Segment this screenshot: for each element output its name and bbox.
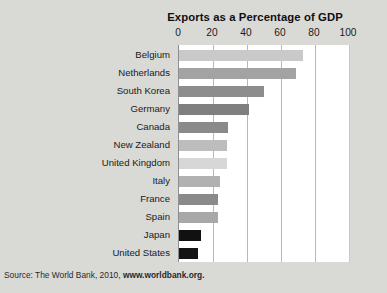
x-tick-label-80: 80 xyxy=(308,27,319,38)
bar-row xyxy=(179,208,349,226)
x-tick-label-0: 0 xyxy=(175,27,181,38)
plot-area xyxy=(178,45,350,262)
x-tick-label-60: 60 xyxy=(274,27,285,38)
bar xyxy=(179,104,249,115)
bar xyxy=(179,50,303,61)
bar xyxy=(179,140,227,151)
source-url: www.worldbank.org. xyxy=(123,270,205,280)
bar xyxy=(179,194,218,205)
bar-row xyxy=(179,190,349,208)
bar-row xyxy=(179,154,349,172)
bar-row xyxy=(179,46,349,64)
category-label: Belgium xyxy=(0,46,174,64)
category-label: United States xyxy=(0,244,174,262)
category-label: South Korea xyxy=(0,82,174,100)
y-axis-category-labels: BelgiumNetherlandsSouth KoreaGermanyCana… xyxy=(0,45,174,262)
category-label: New Zealand xyxy=(0,136,174,154)
bar-row xyxy=(179,226,349,244)
bar xyxy=(179,158,227,169)
x-tick-label-100: 100 xyxy=(340,27,357,38)
bar-row xyxy=(179,118,349,136)
chart-title: Exports as a Percentage of GDP xyxy=(130,11,380,23)
bar-row xyxy=(179,172,349,190)
bar xyxy=(179,248,198,259)
bar xyxy=(179,212,218,223)
category-label: Netherlands xyxy=(0,64,174,82)
bar xyxy=(179,122,228,133)
bar-row xyxy=(179,244,349,262)
bar xyxy=(179,86,264,97)
bar xyxy=(179,68,296,79)
bar xyxy=(179,176,220,187)
category-label: United Kingdom xyxy=(0,154,174,172)
category-label: France xyxy=(0,190,174,208)
category-label: Japan xyxy=(0,226,174,244)
source-prefix: Source: The World Bank, 2010, xyxy=(4,270,123,280)
category-label: Italy xyxy=(0,172,174,190)
source-note: Source: The World Bank, 2010, www.worldb… xyxy=(4,270,204,280)
x-axis-tick-labels: 020406080100 xyxy=(0,27,387,41)
category-label: Spain xyxy=(0,208,174,226)
bar-row xyxy=(179,136,349,154)
category-label: Canada xyxy=(0,118,174,136)
x-tick-label-20: 20 xyxy=(206,27,217,38)
bar-row xyxy=(179,82,349,100)
bar-row xyxy=(179,100,349,118)
bar xyxy=(179,230,201,241)
category-label: Germany xyxy=(0,100,174,118)
bar-row xyxy=(179,64,349,82)
x-tick-label-40: 40 xyxy=(240,27,251,38)
bar-series xyxy=(179,45,349,262)
chart-figure: Exports as a Percentage of GDP 020406080… xyxy=(0,0,387,293)
